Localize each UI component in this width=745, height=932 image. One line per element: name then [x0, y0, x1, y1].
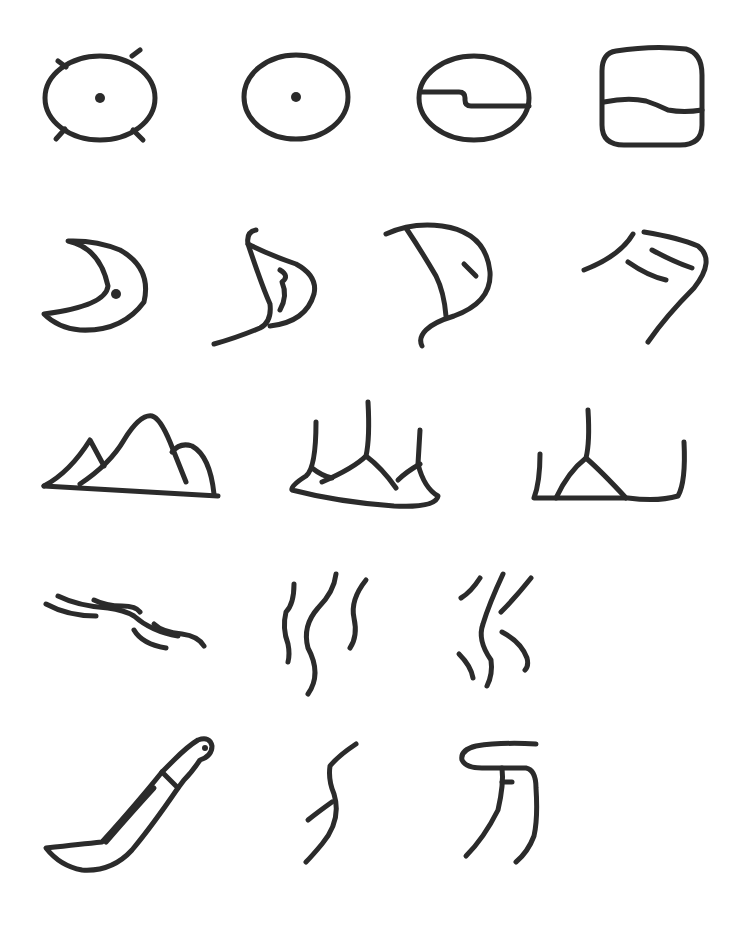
mountain-simple-icon: [528, 402, 692, 504]
moon-dot-icon: [40, 238, 152, 336]
sun-dot-icon: [243, 52, 353, 142]
sun-rayed-icon: [40, 48, 160, 148]
moon-sail-icon: [382, 222, 502, 346]
water-vertical-icon: [278, 570, 378, 698]
moon-stroke-icon: [570, 228, 720, 346]
mountain-peaks-icon: [40, 412, 218, 502]
moon-curl-icon: [210, 226, 335, 348]
knife-blade-icon: [42, 736, 218, 878]
water-horizontal-icon: [42, 592, 210, 668]
knife-script-icon: [458, 738, 542, 868]
water-dashed-icon: [455, 570, 545, 688]
sun-square-icon: [598, 45, 706, 149]
knife-stroke-icon: [302, 740, 362, 866]
mountain-three-spire-icon: [288, 398, 444, 514]
sun-split-icon: [417, 52, 533, 144]
